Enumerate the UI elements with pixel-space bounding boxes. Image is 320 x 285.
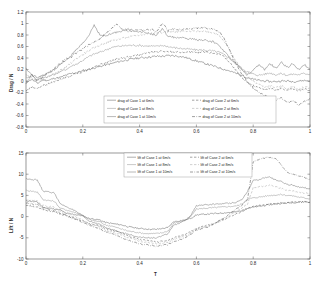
svg-text:5: 5: [21, 193, 24, 198]
svg-text:-0.8: -0.8: [16, 125, 24, 130]
drag-chart-panel: 00.20.40.60.81-0.8-0.6-0.4-0.200.20.40.6…: [0, 0, 320, 145]
legend-label: lift of Case 1 at 10m/s: [138, 170, 173, 174]
legend-label: lift of Case 2 at 6m/s: [201, 156, 234, 160]
svg-text:0.4: 0.4: [136, 261, 143, 266]
svg-text:1: 1: [21, 21, 24, 26]
legend-label: drag of Case 2 at 8m/s: [203, 107, 240, 111]
svg-text:1.2: 1.2: [17, 10, 24, 15]
chart-legend: drag of Case 1 at 6m/sdrag of Case 1 at …: [104, 96, 276, 123]
legend-label: drag of Case 2 at 6m/s: [203, 99, 240, 103]
svg-text:0.2: 0.2: [17, 67, 24, 72]
lift-chart-svg: 00.20.40.60.81-10-5051015lift of Case 1 …: [0, 145, 320, 285]
svg-text:0.2: 0.2: [80, 261, 87, 266]
svg-text:0.6: 0.6: [193, 261, 200, 266]
svg-text:1: 1: [309, 129, 312, 134]
lift-y-axis-label: Lift / N: [9, 218, 14, 233]
chart-legend: lift of Case 1 at 6m/slift of Case 1 at …: [124, 153, 252, 177]
svg-text:1: 1: [309, 261, 312, 266]
svg-text:0.8: 0.8: [250, 261, 257, 266]
svg-text:0.2: 0.2: [80, 129, 87, 134]
svg-text:0.6: 0.6: [193, 129, 200, 134]
svg-text:0.6: 0.6: [17, 44, 24, 49]
svg-text:0.4: 0.4: [17, 56, 24, 61]
legend-label: lift of Case 2 at 8m/s: [201, 163, 234, 167]
svg-text:-0.6: -0.6: [16, 113, 24, 118]
svg-text:0: 0: [21, 79, 24, 84]
svg-text:-0.4: -0.4: [16, 102, 24, 107]
legend-label: drag of Case 2 at 10m/s: [203, 115, 242, 119]
svg-text:0: 0: [25, 261, 28, 266]
lift-x-axis-label: T: [154, 272, 157, 277]
figure-canvas: 00.20.40.60.81-0.8-0.6-0.4-0.200.20.40.6…: [0, 0, 320, 285]
drag-y-axis-label: Drag / N: [9, 74, 14, 92]
svg-text:10: 10: [18, 172, 24, 177]
legend-label: lift of Case 1 at 6m/s: [138, 156, 171, 160]
svg-text:15: 15: [18, 151, 24, 156]
svg-text:0.4: 0.4: [136, 129, 143, 134]
svg-text:0: 0: [25, 129, 28, 134]
legend-label: drag of Case 1 at 8m/s: [118, 107, 155, 111]
svg-text:0: 0: [21, 214, 24, 219]
legend-label: drag of Case 1 at 6m/s: [118, 99, 155, 103]
lift-chart-panel: 00.20.40.60.81-10-5051015lift of Case 1 …: [0, 145, 320, 285]
svg-text:-0.2: -0.2: [16, 90, 24, 95]
legend-label: lift of Case 1 at 8m/s: [138, 163, 171, 167]
svg-text:0.8: 0.8: [17, 33, 24, 38]
svg-text:-10: -10: [17, 257, 24, 262]
drag-chart-svg: 00.20.40.60.81-0.8-0.6-0.4-0.200.20.40.6…: [0, 0, 320, 145]
svg-text:0.8: 0.8: [250, 129, 257, 134]
legend-label: drag of Case 1 at 10m/s: [118, 115, 157, 119]
legend-label: lift of Case 2 at 10m/s: [201, 170, 236, 174]
svg-text:-5: -5: [19, 235, 23, 240]
